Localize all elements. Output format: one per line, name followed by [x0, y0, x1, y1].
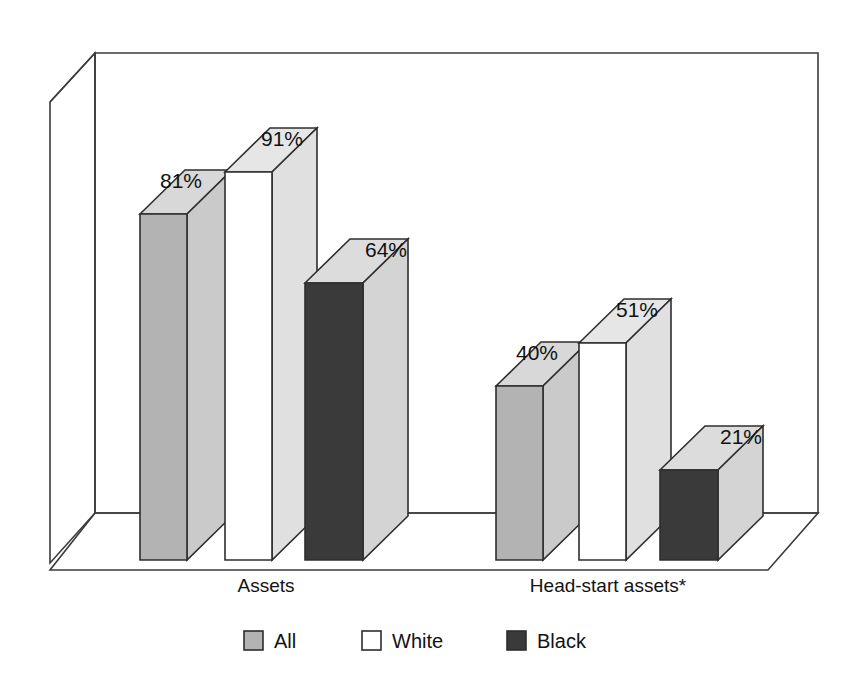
- bar-assets-all[interactable]: [140, 170, 232, 560]
- legend-label-black: Black: [537, 630, 587, 652]
- bar-assets-white-front: [225, 172, 272, 560]
- legend-swatch-all: [244, 631, 263, 650]
- category-label-headstart: Head-start assets*: [530, 575, 687, 596]
- bar-headstart-white[interactable]: [579, 299, 671, 560]
- legend-swatch-white: [362, 631, 381, 650]
- value-label-headstart-black: 21%: [720, 425, 762, 448]
- bar-assets-black[interactable]: [305, 239, 408, 560]
- value-label-headstart-all: 40%: [516, 341, 558, 364]
- category-label-assets: Assets: [237, 575, 294, 596]
- chart-page: 81% 91% 64% 40% 51%: [0, 0, 862, 688]
- legend-item-white[interactable]: White: [362, 630, 443, 652]
- bar-headstart-black-front: [660, 470, 718, 560]
- bar-assets-all-front: [140, 214, 187, 560]
- legend-item-black[interactable]: Black: [507, 630, 587, 652]
- frame-left-wall: [50, 53, 95, 563]
- value-label-assets-all: 81%: [160, 169, 202, 192]
- legend-swatch-black: [507, 631, 526, 650]
- bar-chart-3d: 81% 91% 64% 40% 51%: [0, 0, 862, 688]
- legend-label-white: White: [392, 630, 443, 652]
- bar-headstart-all-front: [496, 386, 543, 560]
- legend: All White Black: [244, 630, 587, 652]
- bar-assets-white[interactable]: [225, 128, 317, 560]
- bar-assets-black-front: [305, 283, 363, 560]
- bar-headstart-white-front: [579, 343, 626, 560]
- bar-assets-black-side: [363, 239, 408, 560]
- value-label-assets-black: 64%: [365, 238, 407, 261]
- legend-item-all[interactable]: All: [244, 630, 296, 652]
- legend-label-all: All: [274, 630, 296, 652]
- frame-top-left-edge: [50, 53, 95, 102]
- bar-headstart-all[interactable]: [496, 342, 588, 560]
- value-label-assets-white: 91%: [261, 127, 303, 150]
- value-label-headstart-white: 51%: [616, 298, 658, 321]
